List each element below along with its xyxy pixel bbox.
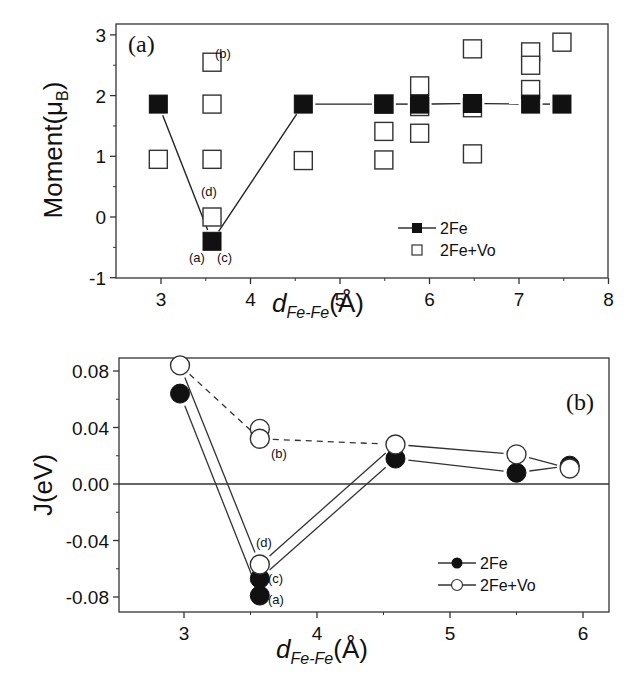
marker-open-square	[375, 122, 393, 140]
marker-open-circle	[560, 459, 579, 478]
x-tick-label: 4	[312, 623, 323, 644]
marker-open-circle	[250, 555, 269, 574]
legend-label: 2Fe+Vo	[480, 577, 536, 594]
y-tick-label: 3	[95, 25, 106, 46]
x-axis-title-sub: Fe-Fe	[291, 650, 334, 667]
y-tick-label: -0.04	[66, 531, 110, 552]
marker-open-square	[411, 124, 429, 142]
legend: 2Fe2Fe+Vo	[398, 220, 496, 259]
marker-open-square	[463, 145, 481, 163]
point-annotation: (d)	[256, 535, 272, 550]
series-line	[529, 458, 557, 465]
y-tick-label: 0	[95, 207, 106, 228]
x-tick-label: 6	[578, 623, 589, 644]
marker-filled-square	[553, 95, 571, 113]
series-line	[408, 460, 503, 471]
y-axis-title-main: Moment(μ	[38, 101, 68, 219]
marker-open-square	[203, 150, 221, 168]
series-line-2fe	[163, 115, 208, 230]
legend: 2Fe2Fe+Vo	[438, 555, 536, 594]
x-axis-title-unit: (Å)	[333, 634, 368, 664]
marker-filled-square	[149, 95, 167, 113]
x-tick-label: 3	[179, 623, 190, 644]
marker-filled-square	[463, 94, 481, 112]
point-annotation: (b)	[215, 46, 231, 61]
marker-filled-circle	[250, 586, 269, 605]
legend-marker-open-circle	[452, 580, 463, 591]
y-tick-label: -0.08	[66, 587, 109, 608]
marker-open-circle	[171, 356, 190, 375]
point-annotation: (c)	[268, 571, 283, 586]
x-tick-label: 8	[603, 289, 614, 310]
point-annotation: (c)	[217, 250, 232, 265]
x-axis-title-unit: (Å)	[329, 288, 364, 318]
marker-filled-square	[203, 232, 221, 250]
series-line-dashed	[190, 374, 251, 430]
panel-a-moment-chart: 345678-10123(a)dFe-Fe(Å)Moment(μB)(b)(d)…	[38, 24, 614, 321]
marker-filled-square	[522, 95, 540, 113]
y-tick-label: 2	[95, 86, 106, 107]
x-tick-label: 6	[424, 289, 435, 310]
marker-open-square	[203, 95, 221, 113]
y-tick-label: -1	[89, 268, 106, 289]
series-line	[408, 446, 503, 454]
marker-open-square	[522, 56, 540, 74]
marker-filled-circle	[507, 463, 526, 482]
marker-open-circle	[507, 445, 526, 464]
legend-marker-filled-square	[412, 223, 422, 233]
x-axis-title: dFe-Fe(Å)	[272, 288, 364, 321]
x-tick-label: 7	[514, 289, 525, 310]
marker-open-square	[203, 208, 221, 226]
legend-marker-filled-circle	[452, 558, 463, 569]
panel-b-exchange-chart: 3456-0.08-0.040.000.040.08(b)dFe-Fe(Å)J(…	[28, 356, 609, 667]
point-annotation: (a)	[189, 250, 205, 265]
point-annotation: (d)	[201, 184, 217, 199]
x-tick-label: 3	[156, 289, 167, 310]
x-tick-label: 4	[245, 289, 256, 310]
figure: 345678-10123(a)dFe-Fe(Å)Moment(μB)(b)(d)…	[0, 0, 635, 692]
y-axis-title-sub: B	[54, 90, 71, 101]
marker-open-square	[411, 77, 429, 95]
marker-open-square	[149, 150, 167, 168]
marker-filled-circle	[171, 384, 190, 403]
marker-filled-square	[294, 95, 312, 113]
point-annotation: (a)	[268, 592, 284, 607]
series-line	[529, 467, 556, 471]
y-tick-label: 0.04	[72, 418, 109, 439]
y-axis-title: Moment(μB)	[38, 82, 71, 219]
y-tick-label: 1	[95, 146, 106, 167]
panel-label: (b)	[566, 389, 594, 415]
series-line	[185, 377, 255, 552]
marker-open-circle	[386, 435, 405, 454]
marker-open-square	[553, 33, 571, 51]
x-tick-label: 5	[445, 623, 456, 644]
y-tick-label: 0.08	[72, 361, 109, 382]
marker-open-circle	[250, 429, 269, 448]
marker-open-square	[375, 151, 393, 169]
legend-marker-open-square	[412, 245, 422, 255]
legend-label: 2Fe+Vo	[440, 242, 496, 259]
marker-filled-square	[411, 95, 429, 113]
series-line	[270, 453, 386, 556]
series-line	[270, 467, 386, 570]
series-line	[185, 406, 255, 584]
point-annotation: (b)	[271, 446, 287, 461]
marker-open-square	[463, 40, 481, 58]
series-line-dashed	[273, 439, 383, 444]
legend-label: 2Fe	[480, 555, 508, 572]
marker-filled-square	[375, 95, 393, 113]
y-tick-label: 0.00	[72, 474, 109, 495]
y-axis-title: J(eV)	[28, 454, 58, 516]
x-axis-title-sub: Fe-Fe	[287, 304, 330, 321]
series-line-2fe	[219, 114, 297, 231]
panel-label: (a)	[128, 31, 155, 57]
marker-open-square	[294, 152, 312, 170]
legend-label: 2Fe	[440, 220, 468, 237]
y-axis-title-close: )	[38, 82, 68, 91]
